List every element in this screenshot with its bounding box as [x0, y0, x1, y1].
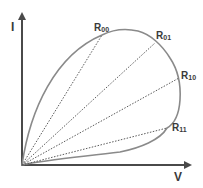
label-r00: R00	[94, 22, 109, 33]
x-axis-label: V	[174, 170, 182, 184]
r01-line	[22, 43, 155, 165]
y-axis-label: I	[11, 20, 14, 34]
r00-line	[22, 35, 102, 165]
label-r10: R10	[181, 70, 196, 81]
label-r11: R11	[172, 122, 187, 133]
label-r01: R01	[156, 30, 171, 41]
r11-line	[22, 128, 167, 165]
